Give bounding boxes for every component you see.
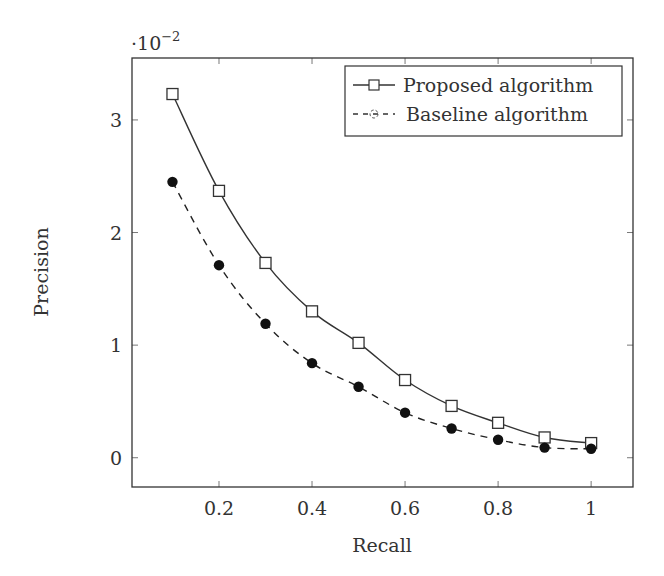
- legend-label-proposed: Proposed algorithm: [403, 74, 593, 96]
- legend-label-baseline: Baseline algorithm: [406, 103, 588, 125]
- filled-circle-marker-icon: [307, 358, 317, 368]
- filled-circle-marker-icon: [260, 319, 270, 329]
- series-baseline: [167, 177, 596, 454]
- filled-circle-marker-icon: [446, 423, 456, 433]
- filled-circle-marker-icon: [493, 435, 503, 445]
- line-chart: 0.20.40.60.81 0123 ·10−2 Recall Precisio…: [0, 0, 664, 576]
- filled-circle-marker-icon: [167, 177, 177, 187]
- square-marker-icon: [307, 306, 318, 317]
- x-tick-labels: 0.20.40.60.81: [204, 497, 597, 519]
- y-tick-label: 3: [110, 109, 122, 131]
- legend: Proposed algorithm Baseline algorithm: [345, 66, 622, 136]
- square-marker-icon: [353, 337, 364, 348]
- filled-circle-marker-icon: [539, 442, 549, 452]
- square-marker-icon: [167, 89, 178, 100]
- filled-circle-marker-icon: [353, 382, 363, 392]
- square-marker-icon: [539, 432, 550, 443]
- filled-circle-marker-icon: [586, 444, 596, 454]
- square-marker-icon: [260, 257, 271, 268]
- open-square-marker-icon: [369, 80, 379, 90]
- filled-circle-marker-icon: [400, 407, 410, 417]
- y-tick-label: 2: [110, 222, 122, 244]
- square-marker-icon: [213, 185, 224, 196]
- x-tick-label: 0.2: [204, 497, 234, 519]
- square-marker-icon: [446, 400, 457, 411]
- filled-circle-marker-icon: [214, 260, 224, 270]
- y-tick-label: 1: [110, 334, 122, 356]
- y-tick-label: 0: [110, 447, 122, 469]
- series-line: [172, 182, 591, 449]
- x-axis-label: Recall: [352, 534, 412, 556]
- series-layer: [167, 89, 597, 454]
- series-proposed: [167, 89, 597, 449]
- y-axis-label: Precision: [30, 227, 52, 316]
- series-line: [172, 94, 591, 443]
- square-marker-icon: [400, 375, 411, 386]
- x-tick-label: 0.8: [483, 497, 513, 519]
- x-tick-label: 0.6: [390, 497, 420, 519]
- y-tick-labels: 0123: [110, 109, 122, 469]
- x-tick-label: 0.4: [297, 497, 327, 519]
- y-scale-multiplier: ·10−2: [131, 29, 180, 54]
- square-marker-icon: [493, 417, 504, 428]
- x-tick-label: 1: [585, 497, 597, 519]
